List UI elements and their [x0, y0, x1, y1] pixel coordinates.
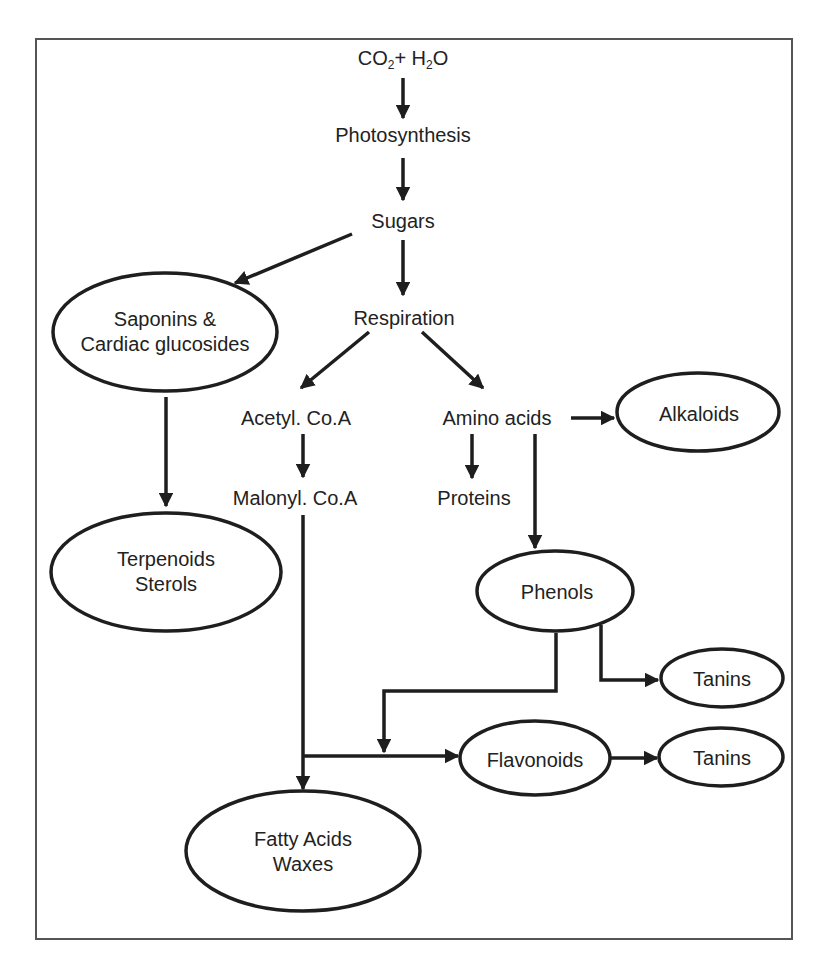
- node-fatty-acids: Fatty Acids Waxes: [254, 827, 352, 877]
- plus-h-text: + H: [394, 47, 426, 69]
- terpenoids-line2: Sterols: [135, 572, 197, 597]
- node-proteins: Proteins: [437, 486, 510, 511]
- arrow-phenols-tanins: [601, 625, 658, 680]
- arrow-sugars-saponins: [235, 234, 352, 283]
- fatty-acids-line2: Waxes: [273, 852, 333, 877]
- node-respiration: Respiration: [353, 306, 454, 331]
- pathway-diagram: CO2+ H2O Photosynthesis Sugars Respirati…: [0, 0, 825, 973]
- node-flavonoids: Flavonoids: [487, 748, 584, 773]
- diagram-frame: [36, 39, 792, 939]
- node-saponins: Saponins & Cardiac glucosides: [81, 307, 250, 357]
- node-photosynthesis: Photosynthesis: [335, 123, 471, 148]
- node-terpenoids: Terpenoids Sterols: [117, 547, 215, 597]
- fatty-acids-line1: Fatty Acids: [254, 827, 352, 852]
- arrow-respiration-acetyl: [301, 332, 369, 388]
- terpenoids-line1: Terpenoids: [117, 547, 215, 572]
- node-sugars: Sugars: [371, 209, 434, 234]
- node-malonyl-coa: Malonyl. Co.A: [233, 486, 358, 511]
- co2-text: CO: [358, 47, 388, 69]
- saponins-line2: Cardiac glucosides: [81, 332, 250, 357]
- arrow-respiration-amino: [422, 332, 483, 388]
- o-text: O: [433, 47, 449, 69]
- node-amino-acids: Amino acids: [443, 406, 552, 431]
- node-tanins-1: Tanins: [693, 667, 751, 692]
- saponins-line1: Saponins &: [114, 307, 216, 332]
- node-tanins-2: Tanins: [693, 746, 751, 771]
- node-alkaloids: Alkaloids: [659, 402, 739, 427]
- node-phenols: Phenols: [521, 580, 593, 605]
- node-acetyl-coa: Acetyl. Co.A: [241, 406, 351, 431]
- arrow-phenols-flavonoids: [384, 633, 556, 752]
- co2-subscript: 2: [388, 58, 395, 72]
- node-co2-h2o: CO2+ H2O: [358, 46, 449, 71]
